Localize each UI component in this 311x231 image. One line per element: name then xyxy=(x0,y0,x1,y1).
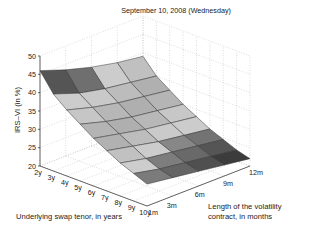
z-tick-label: 25 xyxy=(28,143,36,152)
y-tick-label: 12m xyxy=(249,168,263,177)
x-axis-label: Underlying swap tenor, in years xyxy=(16,212,122,221)
y-tick-label: 9m xyxy=(223,179,233,188)
y-tick-label: 6m xyxy=(195,190,205,199)
z-tick-label: 45 xyxy=(28,70,36,79)
x-tick-label: 8y xyxy=(114,198,122,207)
x-tick-label: 3y xyxy=(48,173,56,182)
x-tick-label: 2y xyxy=(34,168,42,177)
z-axis-label: IRS–VI (in %) xyxy=(13,87,22,133)
x-tick-label: 6y xyxy=(88,188,96,197)
surface-mesh xyxy=(40,56,250,184)
x-tick-label: 4y xyxy=(61,178,69,187)
y-axis-label-line1: Length of the volatility xyxy=(208,202,282,211)
y-tick-label: 3m xyxy=(167,201,177,210)
surface-chart: September 10, 2008 (Wednesday) 202530354… xyxy=(0,0,311,231)
z-tick-label: 40 xyxy=(28,88,36,97)
z-tick-label: 35 xyxy=(28,107,36,116)
y-axis-label-line2: contract, in months xyxy=(208,212,272,221)
z-tick-label: 30 xyxy=(28,125,36,134)
z-tick-label: 50 xyxy=(28,52,36,61)
chart-title: September 10, 2008 (Wednesday) xyxy=(121,6,231,15)
x-tick-label: 5y xyxy=(74,183,82,192)
x-tick-label: 9y xyxy=(128,203,136,212)
x-tick-label: 7y xyxy=(101,193,109,202)
y-tick-label: 1m xyxy=(148,208,158,217)
